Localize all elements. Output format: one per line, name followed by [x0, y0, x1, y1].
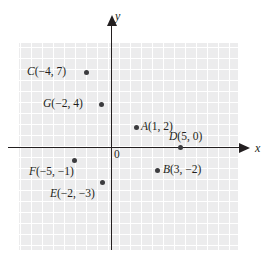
data-point-coords-e: (−2, −3): [57, 187, 95, 199]
data-point-label-c: C(−4, 7): [27, 66, 66, 78]
data-point-letter-a: A: [141, 120, 148, 132]
data-point-e: [100, 180, 105, 185]
data-point-label-d: D(5, 0): [169, 131, 202, 143]
data-point-coords-g: (−2, 4): [51, 97, 82, 109]
data-point-g: [99, 102, 104, 107]
data-point-label-f: F(−5, −1): [29, 166, 74, 178]
data-point-label-g: G(−2, 4): [43, 98, 83, 110]
data-point-a: [134, 125, 139, 130]
data-point-coords-c: (−4, 7): [35, 65, 66, 77]
data-point-b: [155, 168, 160, 173]
data-point-letter-f: F: [29, 165, 36, 177]
data-point-coords-b: (3, −2): [170, 163, 201, 175]
data-point-coords-f: (−5, −1): [36, 165, 74, 177]
data-point-letter-c: C: [27, 65, 35, 77]
data-point-letter-e: E: [50, 187, 57, 199]
x-axis-line: [8, 147, 241, 148]
data-point-label-e: E(−2, −3): [50, 188, 95, 200]
origin-label: 0: [114, 149, 120, 161]
x-axis-label: x: [255, 142, 260, 154]
data-point-c: [84, 70, 89, 75]
y-axis-label: y: [115, 10, 120, 22]
coordinate-plane-figure: x y 0 C(−4, 7) G(−2, 4) A(1, 2) D(5, 0) …: [0, 0, 277, 267]
data-point-label-b: B(3, −2): [163, 164, 201, 176]
y-axis-line: [111, 25, 112, 250]
data-point-letter-b: B: [163, 163, 170, 175]
data-point-f: [72, 158, 77, 163]
data-point-d: [178, 145, 183, 150]
data-point-coords-d: (5, 0): [177, 130, 202, 142]
x-axis-arrowhead-icon: [239, 143, 250, 153]
